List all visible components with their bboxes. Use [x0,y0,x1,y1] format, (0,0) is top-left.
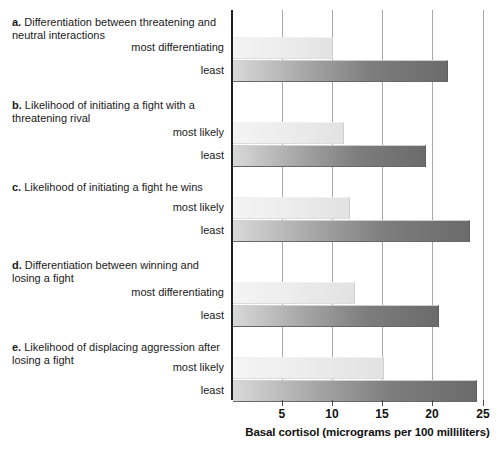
group-letter-d: d. [12,259,22,271]
bar-a-most-differentiating [233,37,333,59]
x-axis-title: Basal cortisol (micrograms per 100 milli… [232,426,503,438]
group-letter-b: b. [12,99,22,111]
horizontal-bar-chart: a. Differentiation between threatening a… [0,0,503,450]
group-letter-e: e. [12,341,21,353]
row-label-d-0: most differentiating [10,282,224,302]
bar-b-least [233,145,426,167]
row-label-d-1: least [10,305,224,325]
group-letter-c: c. [12,181,21,193]
row-label-e-0: most likely [10,357,224,377]
tick-15 [382,400,383,406]
row-label-b-0: most likely [10,122,224,142]
row-label-a-0: most differentiating [10,37,224,57]
group-title-c: c. Likelihood of initiating a fight he w… [12,181,228,194]
bar-b-most-likely [233,122,344,144]
tick-label-15: 15 [362,407,402,421]
group-text-c: Likelihood of initiating a fight he wins [24,181,203,193]
row-label-a-1: least [10,60,224,80]
row-label-b-1: least [10,145,224,165]
row-label-c-1: least [10,220,224,240]
group-title-d: d. Differentiation between winning and l… [12,259,228,284]
group-title-b: b. Likelihood of initiating a fight with… [12,99,228,124]
bar-e-most-likely [233,357,384,379]
row-label-c-0: most likely [10,197,224,217]
tick-5 [282,400,283,406]
group-text-d: Differentiation between winning and losi… [12,259,199,284]
tick-10 [332,400,333,406]
tick-label-10: 10 [312,407,352,421]
row-label-e-1: least [10,380,224,400]
tick-label-20: 20 [412,407,452,421]
bar-a-least [233,60,448,82]
bar-c-most-likely [233,197,350,219]
gridline-25 [483,10,484,400]
group-text-b: Likelihood of initiating a fight with a … [12,99,195,124]
bar-c-least [233,220,470,242]
bar-e-least [233,380,477,402]
tick-label-25: 25 [463,407,503,421]
tick-label-5: 5 [262,407,302,421]
bar-d-least [233,305,439,327]
group-letter-a: a. [12,16,21,28]
tick-25 [483,400,484,406]
tick-20 [432,400,433,406]
bar-d-most-differentiating [233,282,355,304]
